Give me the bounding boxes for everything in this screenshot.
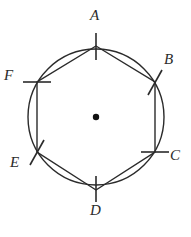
vertex-label-a: A <box>90 8 99 23</box>
vertex-label-f: F <box>4 68 13 83</box>
vertex-label-e: E <box>10 155 19 170</box>
center-dot <box>93 114 99 120</box>
vertex-label-d: D <box>90 203 101 218</box>
vertex-label-b: B <box>164 52 173 67</box>
geometry-figure: A B C D E F <box>0 0 191 237</box>
vertex-label-c: C <box>170 148 180 163</box>
